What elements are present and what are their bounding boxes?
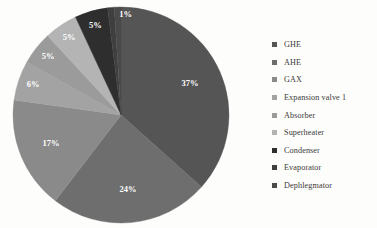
legend-item-label: Absorber: [284, 111, 315, 120]
legend-swatch-icon: [272, 77, 277, 82]
legend-item-label: GHE: [284, 40, 301, 49]
legend-swatch-icon: [272, 42, 277, 47]
legend-item[interactable]: AHE: [272, 54, 377, 72]
pie-slice-label: 1%: [119, 9, 132, 19]
legend-swatch-icon: [272, 148, 277, 153]
legend-item[interactable]: GHE: [272, 36, 377, 54]
legend-item[interactable]: Superheater: [272, 124, 377, 142]
pie-slice-label: 5%: [89, 20, 102, 30]
legend-item-label: Superheater: [284, 128, 324, 137]
legend-swatch-icon: [272, 60, 277, 65]
pie-slice-label: 6%: [27, 79, 40, 89]
legend-item[interactable]: Condenser: [272, 142, 377, 160]
pie-slice-label: 5%: [63, 32, 76, 42]
legend-item-label: Evaporator: [284, 163, 321, 172]
legend-swatch-icon: [272, 113, 277, 118]
legend-item-label: Expansion valve 1: [284, 93, 346, 102]
legend-swatch-icon: [272, 183, 277, 188]
legend-item[interactable]: Expansion valve 1: [272, 89, 377, 107]
pie-chart: 37%24%17%6%5%5%5%1%1%: [0, 0, 250, 228]
legend-item-label: Dephlegmator: [284, 181, 332, 190]
legend-item[interactable]: Evaporator: [272, 159, 377, 177]
legend-item-label: Condenser: [284, 146, 320, 155]
chart-page: 37%24%17%6%5%5%5%1%1% GHEAHEGAXExpansion…: [0, 0, 377, 228]
legend-item-label: AHE: [284, 58, 301, 67]
pie-slice-label: 5%: [42, 51, 55, 61]
legend-swatch-icon: [272, 95, 277, 100]
pie-slice-label: 1%: [107, 0, 120, 7]
legend-swatch-icon: [272, 130, 277, 135]
legend-item[interactable]: GAX: [272, 71, 377, 89]
chart-legend: GHEAHEGAXExpansion valve 1AbsorberSuperh…: [272, 36, 377, 194]
pie-slice-label: 24%: [120, 184, 137, 194]
legend-item-label: GAX: [284, 75, 302, 84]
pie-chart-svg: 37%24%17%6%5%5%5%1%1%: [0, 0, 250, 228]
pie-slice-label: 37%: [182, 78, 199, 88]
legend-swatch-icon: [272, 165, 277, 170]
legend-item[interactable]: Dephlegmator: [272, 177, 377, 195]
legend-item[interactable]: Absorber: [272, 106, 377, 124]
pie-slice-label: 17%: [43, 138, 60, 148]
